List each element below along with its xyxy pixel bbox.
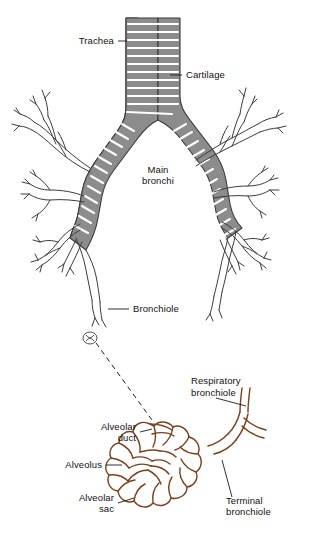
label-terminal-bronchiole-line1: Terminal (226, 495, 263, 506)
alveolar-unit-group (106, 388, 266, 507)
label-alveolus: Alveolus (24, 459, 102, 470)
leader-alveolar-duct (140, 429, 152, 432)
leader-respiratory-bronchiole (216, 398, 246, 406)
diagram-artwork (0, 0, 322, 556)
label-bronchiole: Bronchiole (133, 303, 179, 314)
label-trachea: Trachea (40, 35, 114, 46)
right-main-bronchus-body (158, 18, 242, 238)
bronchiole-detail-marker (83, 332, 97, 344)
detail-connector-line (96, 343, 152, 420)
label-alveolar-sac-line2: sac (32, 503, 114, 514)
label-terminal-bronchiole-line2: bronchiole (226, 506, 271, 517)
respiratory-system-diagram: Trachea Cartilage Main bronchi Bronchiol… (0, 0, 322, 556)
trachea-main-tube (70, 18, 158, 250)
label-main-bronchi-line2: bronchi (130, 175, 186, 186)
label-main-bronchi-line1: Main (130, 164, 186, 175)
leader-terminal-bronchiole (222, 460, 232, 497)
label-alveolar-sac-line1: Alveolar (32, 492, 114, 503)
label-cartilage: Cartilage (186, 69, 225, 80)
label-alveolar-duct-line1: Alveolar (38, 421, 136, 432)
label-respiratory-bronchiole-line1: Respiratory (191, 375, 241, 386)
label-respiratory-bronchiole-line2: bronchiole (191, 387, 236, 398)
label-alveolar-duct-line2: duct (38, 432, 136, 443)
